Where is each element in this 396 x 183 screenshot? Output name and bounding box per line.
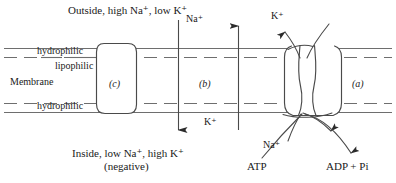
membrane-label: Membrane xyxy=(10,77,53,87)
outside-label: Outside, high Na⁺, low K⁺ xyxy=(68,5,187,16)
channel-a-label: (a) xyxy=(352,79,364,89)
diagram-canvas xyxy=(0,0,396,183)
na-top-label: Na⁺ xyxy=(186,14,203,24)
k-bottom-label: K⁺ xyxy=(204,117,217,127)
transport-arrows-straight xyxy=(179,20,239,130)
hydrophilic-bottom-label: hydrophilic xyxy=(37,101,83,111)
sodium-potassium-pump-a xyxy=(283,46,342,118)
na-binding-arrow xyxy=(288,114,301,141)
adp-pi-label: ADP + Pi xyxy=(326,161,368,172)
membrane-transport-diagram: Outside, high Na⁺, low K⁺ Inside, low Na… xyxy=(0,0,396,183)
k-top-label: K⁺ xyxy=(271,11,284,21)
adp-release-arrow xyxy=(305,114,351,153)
channel-c-label: (c) xyxy=(109,79,120,89)
na-pump-label: Na⁺ xyxy=(263,140,280,150)
atp-label: ATP xyxy=(247,161,267,172)
hydrophilic-top-label: hydrophilic xyxy=(37,46,83,56)
channel-b-label: (b) xyxy=(199,79,211,89)
atp-inflow-line xyxy=(262,114,302,158)
negative-charge-label: (negative) xyxy=(104,161,149,172)
inside-label: Inside, low Na⁺, high K⁺ xyxy=(72,148,184,159)
lipophilic-label: lipophilic xyxy=(55,61,93,71)
